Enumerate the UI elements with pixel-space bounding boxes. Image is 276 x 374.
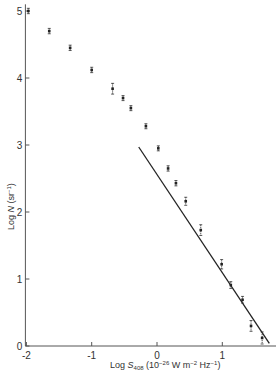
point-marker	[250, 325, 253, 328]
fit-line-segment	[139, 147, 270, 343]
point-marker	[261, 337, 264, 340]
data-point	[69, 45, 72, 50]
x-axis-label: Log S408 (10−26 W m−2 Hz−1)	[110, 360, 220, 371]
ticks: -2-101012345	[17, 6, 226, 361]
point-marker	[69, 47, 72, 50]
data-point	[167, 166, 170, 171]
y-tick-label: 5	[17, 6, 23, 17]
data-point	[144, 124, 147, 129]
y-tick-label: 1	[17, 274, 23, 285]
y-axis-label: Log N (sr−1)	[6, 183, 16, 230]
chart: -2-101012345 Log S408 (10−26 W m−2 Hz−1)…	[0, 0, 276, 374]
point-marker	[90, 69, 93, 72]
data-point	[157, 146, 160, 151]
point-marker	[130, 107, 133, 110]
y-tick-label: 2	[17, 207, 23, 218]
point-marker	[111, 87, 114, 90]
data-point	[122, 96, 125, 101]
data-point	[184, 197, 187, 205]
x-tick-label: -2	[22, 350, 31, 361]
point-marker	[184, 200, 187, 203]
point-marker	[199, 229, 202, 232]
point-marker	[27, 10, 30, 13]
data-point	[199, 225, 202, 236]
data-point	[111, 83, 114, 94]
point-marker	[157, 147, 160, 150]
data-point	[129, 106, 132, 111]
data-point	[174, 181, 177, 186]
axes	[25, 4, 276, 346]
data-points	[27, 8, 264, 344]
data-point	[48, 28, 51, 33]
data-point	[27, 8, 30, 13]
point-marker	[145, 125, 148, 128]
point-marker	[241, 298, 244, 301]
point-marker	[48, 30, 51, 33]
fit-line	[139, 147, 270, 343]
y-tick-label: 4	[17, 73, 23, 84]
y-tick-label: 3	[17, 140, 23, 151]
data-point	[90, 67, 93, 72]
x-tick-label: -1	[87, 350, 96, 361]
point-marker	[229, 284, 232, 287]
point-marker	[175, 182, 178, 185]
point-marker	[122, 97, 125, 100]
data-point	[220, 260, 223, 269]
data-point	[250, 321, 253, 332]
y-tick-label: 0	[17, 341, 23, 352]
point-marker	[167, 167, 170, 170]
point-marker	[220, 263, 223, 266]
